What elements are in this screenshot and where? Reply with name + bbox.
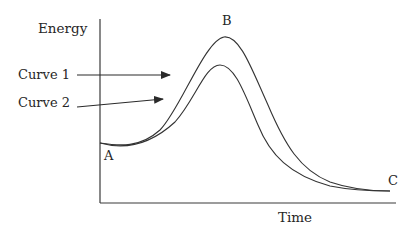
curve-2-line	[100, 65, 390, 191]
point-b-label: B	[222, 14, 232, 27]
curve-1-line	[100, 37, 390, 191]
curve-1-label: Curve 1	[18, 68, 70, 81]
curve-2-label: Curve 2	[18, 96, 70, 109]
point-a-label: A	[104, 149, 113, 162]
x-axis-label: Time	[278, 211, 312, 225]
point-c-label: C	[388, 174, 398, 187]
y-axis-label: Energy	[38, 22, 87, 36]
curve-2-pointer-arrow	[77, 99, 163, 107]
